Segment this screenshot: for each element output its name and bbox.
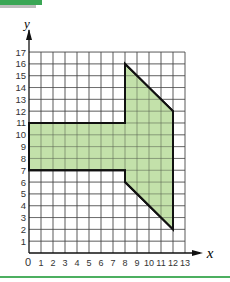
svg-text:8: 8 [122,258,127,268]
svg-text:8: 8 [21,153,26,164]
svg-text:3: 3 [21,212,26,223]
svg-text:9: 9 [134,258,139,268]
svg-text:6: 6 [98,258,103,268]
svg-text:10: 10 [144,258,154,268]
svg-text:4: 4 [74,258,79,268]
svg-text:13: 13 [180,258,190,268]
coordinate-grid-diagram: 1234567891011121312345678910111213141516… [0,0,230,282]
origin-label: 0 [25,256,31,268]
svg-text:12: 12 [168,258,178,268]
svg-text:16: 16 [15,58,26,69]
svg-text:5: 5 [86,258,91,268]
svg-text:7: 7 [21,165,26,176]
svg-text:2: 2 [50,258,55,268]
svg-text:11: 11 [16,117,26,128]
svg-text:6: 6 [21,177,26,188]
svg-text:4: 4 [21,200,26,211]
svg-text:5: 5 [21,188,26,199]
x-axis-label: x [206,245,214,261]
svg-text:12: 12 [15,106,26,117]
svg-text:3: 3 [62,258,67,268]
svg-text:15: 15 [15,70,26,81]
svg-text:2: 2 [21,224,26,235]
svg-text:7: 7 [110,258,115,268]
svg-text:9: 9 [21,141,26,152]
footer-accent-line [0,276,230,278]
svg-text:1: 1 [21,236,26,247]
svg-text:11: 11 [156,258,165,268]
svg-text:17: 17 [15,47,26,58]
y-axis-label: y [22,16,30,31]
svg-text:1: 1 [38,258,43,268]
svg-text:13: 13 [15,94,26,105]
svg-text:10: 10 [15,129,26,140]
svg-text:14: 14 [15,82,26,93]
